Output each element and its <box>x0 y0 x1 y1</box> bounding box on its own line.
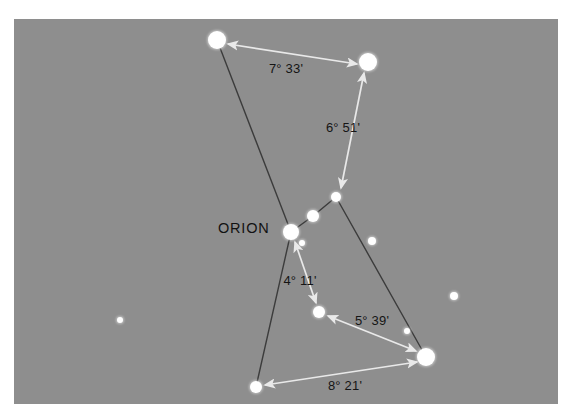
star-betelgeuse <box>208 31 226 49</box>
measurement-label-lower-left-rigel: 8° 21' <box>328 378 362 393</box>
star-field-star-above-rigel <box>404 328 410 334</box>
orion-constellation-figure: 7° 33'6° 51'4° 11'5° 39'8° 21' ORION <box>0 0 574 419</box>
sky-canvas <box>14 19 558 404</box>
star-field-star-near-alnitak <box>299 240 305 246</box>
star-bellatrix <box>359 53 377 71</box>
star-field-star-left <box>117 317 123 323</box>
star-alnilam <box>307 210 319 222</box>
star-mintaka <box>331 192 341 202</box>
annotations: ORION <box>218 220 270 236</box>
measurement-label-alnitak-saiph: 4° 11' <box>283 273 316 288</box>
star-alnitak <box>283 224 299 240</box>
star-field-star-center-right <box>368 237 376 245</box>
star-field-star-right-edge <box>450 292 458 300</box>
measurement-label-saiph-rigel: 5° 39' <box>355 313 389 328</box>
measurement-label-bellatrix-mintaka: 6° 51' <box>326 120 360 135</box>
measurement-label-betelgeuse-bellatrix: 7° 33' <box>269 61 303 76</box>
sky-chart-svg: 7° 33'6° 51'4° 11'5° 39'8° 21' ORION <box>0 0 574 419</box>
star-lower-left-star <box>250 381 262 393</box>
orion-name-label: ORION <box>218 220 270 236</box>
star-rigel <box>417 348 435 366</box>
star-saiph <box>313 306 325 318</box>
